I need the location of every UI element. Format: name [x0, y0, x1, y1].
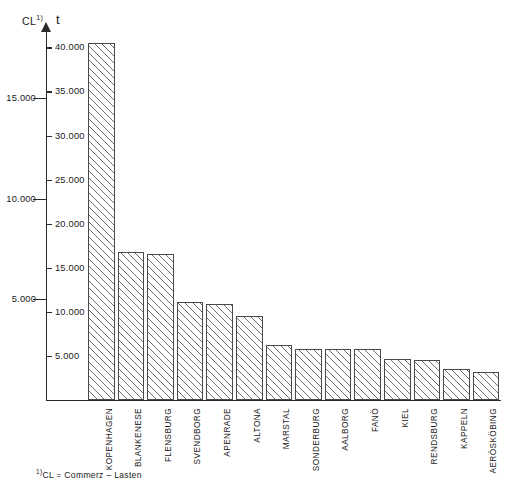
bar-category-label: AALBORG [341, 408, 350, 451]
bar [236, 316, 263, 400]
bar [266, 345, 293, 400]
bar-category-label: AERÖSKÖBING [489, 408, 498, 473]
bar-category-label: FLENSBURG [164, 408, 173, 462]
bar-series: KOPENHAGENBLANKENESEFLENSBURGSVENDBORGAP… [0, 0, 507, 490]
bar-category-label: ALTONA [253, 408, 262, 443]
bar-category-label: KOPENHAGEN [105, 408, 114, 470]
bar [414, 360, 441, 400]
bar [384, 359, 411, 400]
bar-category-label: KAPPELN [460, 408, 469, 449]
bar [295, 349, 322, 400]
bar-category-label: FANÖ [371, 408, 380, 432]
bar-category-label: MARSTAL [282, 408, 291, 449]
chart-footnote: 1)CL = Commerz – Lasten [36, 468, 142, 480]
bar-chart: CL1) t 5.00010.00015.00020.00025.00030.0… [0, 0, 507, 490]
bar [354, 349, 381, 400]
bar [88, 43, 115, 400]
bar-category-label: SVENDBORG [193, 408, 202, 464]
footnote-text: CL = Commerz – Lasten [42, 470, 141, 480]
bar [206, 304, 233, 400]
bar-category-label: APENRADE [223, 408, 232, 457]
bar [443, 369, 470, 400]
bar [325, 349, 352, 400]
bar-category-label: KIEL [401, 408, 410, 428]
bar [147, 254, 174, 400]
bar-category-label: BLANKENESE [134, 408, 143, 467]
bar-category-label: SONDERBURG [312, 408, 321, 471]
bar [177, 302, 204, 400]
bar [473, 372, 500, 400]
bar [118, 252, 145, 400]
bar-category-label: RENDSBURG [430, 408, 439, 464]
